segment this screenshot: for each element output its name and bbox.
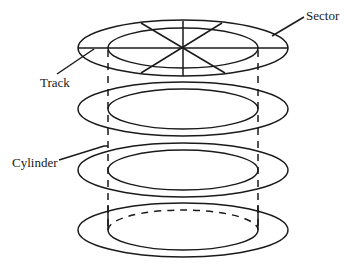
platter-1 xyxy=(78,20,288,76)
platter-4-track-visible xyxy=(108,230,258,250)
platter-3 xyxy=(78,143,288,197)
platter-2 xyxy=(78,82,288,136)
platter-2-track xyxy=(108,89,258,129)
platter-4-outer-edge xyxy=(78,203,288,257)
disk-diagram: Sector Track Cylinder xyxy=(0,0,346,264)
sector-label: Sector xyxy=(306,9,339,22)
platter-3-track xyxy=(108,150,258,190)
disk-geometry-drawing xyxy=(0,0,346,264)
track-label: Track xyxy=(40,76,70,89)
cylinder-label: Cylinder xyxy=(12,156,58,169)
platter-4-track-hidden xyxy=(108,210,258,230)
sector-leader xyxy=(272,17,304,36)
platter-4 xyxy=(78,203,288,257)
platter-3-outer-edge xyxy=(78,143,288,197)
track-leader xyxy=(57,49,94,74)
platter-2-outer-edge xyxy=(78,82,288,136)
